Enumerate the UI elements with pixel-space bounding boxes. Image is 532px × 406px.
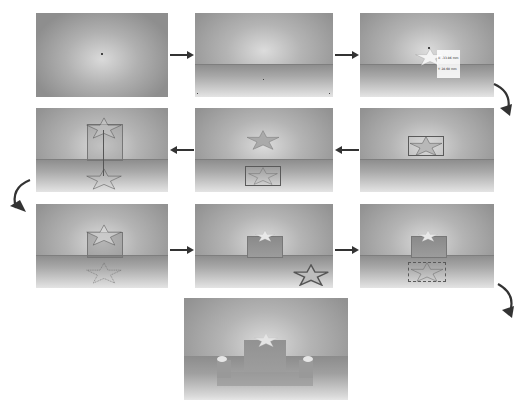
star-floor-outline xyxy=(86,262,122,284)
star-floor-outline xyxy=(86,168,122,190)
star-shape xyxy=(246,130,280,150)
tooltip-y: Y: 28.60 mm xyxy=(438,68,459,72)
base-wall xyxy=(217,372,313,386)
star-top xyxy=(86,224,122,246)
star-shape xyxy=(409,136,443,156)
step-7-panel xyxy=(36,204,168,288)
coordinate-tooltip: X: -33.86 mm Y: 28.60 mm xyxy=(437,50,460,78)
arrow-right-8-9 xyxy=(335,246,359,254)
arrow-right-2-3 xyxy=(335,51,359,59)
preview-star-thumbnail xyxy=(293,264,329,286)
ground-plane xyxy=(360,64,494,97)
final-result-panel xyxy=(184,298,348,400)
star-top-lit xyxy=(418,229,438,243)
star-top-lit xyxy=(255,229,275,243)
left-highlight xyxy=(217,356,227,362)
star-top xyxy=(86,117,122,139)
step-3-panel: X: -33.86 mm Y: 28.60 mm xyxy=(360,13,494,97)
vertex-handle xyxy=(428,47,430,49)
arrow-left-5-6 xyxy=(170,146,194,154)
ground-plane xyxy=(195,64,333,97)
arrow-curve-9-10 xyxy=(492,282,520,322)
step-5-panel xyxy=(195,108,333,192)
star-floor-copy xyxy=(247,167,279,185)
arrow-left-4-5 xyxy=(335,146,359,154)
step-4-panel xyxy=(360,108,494,192)
arrow-curve-6-7 xyxy=(6,178,36,216)
step-1-panel xyxy=(36,13,168,97)
step-8-panel xyxy=(195,204,333,288)
arrow-right-7-8 xyxy=(170,246,194,254)
origin-point xyxy=(101,53,103,55)
step-2-panel xyxy=(195,13,333,97)
corner-marker xyxy=(197,93,198,94)
floor-point xyxy=(263,79,264,80)
step-9-panel xyxy=(360,204,494,288)
step-6-panel xyxy=(36,108,168,192)
center-star-top xyxy=(254,332,278,348)
corner-marker xyxy=(329,93,330,94)
arrow-right-1-2 xyxy=(170,51,194,59)
right-highlight xyxy=(303,356,313,362)
star-floor-outline xyxy=(410,262,444,282)
tooltip-x: X: -33.86 mm xyxy=(438,57,459,61)
ground-plane xyxy=(360,159,494,192)
